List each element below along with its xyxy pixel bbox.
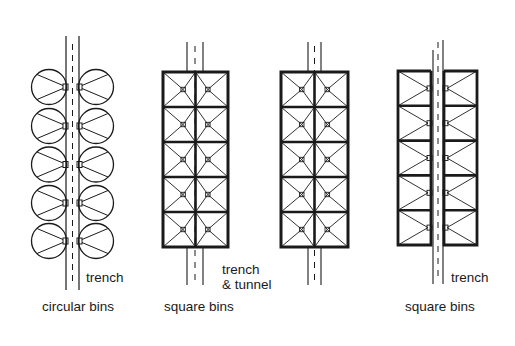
hopper-line [447,158,477,175]
hopper-line [37,191,63,202]
square-bin [444,175,477,210]
square-bin [281,212,315,247]
hopper-line [37,152,63,163]
circular-bin [79,224,114,259]
hopper-line [398,106,428,123]
square-bin [398,71,431,106]
hopper-line [327,142,348,160]
hopper-line [327,72,348,90]
square-bin [398,141,431,176]
circular-bin [32,147,67,182]
hopper-line [37,243,63,254]
caption-square-bins-3: square bins [405,299,475,314]
hopper-line [447,228,477,245]
hopper-line [281,72,302,90]
hopper-line [163,142,183,160]
square-bin [315,212,349,247]
hopper-line [398,175,428,192]
hopper-line [37,205,63,216]
hopper-line [281,230,302,248]
hopper-line [398,210,428,227]
trench-label-square-1: trench [222,262,260,277]
hopper-line [281,90,302,108]
hopper-line [447,141,477,158]
hopper-line [447,210,477,227]
hopper-line [82,191,108,202]
hopper-line [208,142,228,160]
hopper-line [82,152,108,163]
hopper-line [327,90,348,108]
hopper-line [281,195,302,213]
hopper-line [398,158,428,175]
hopper-line [82,243,108,254]
hopper-line [163,212,183,230]
left-bin-block-frame [398,71,431,245]
trench-label-square-3: trench [451,270,489,285]
hopper-line [327,107,348,125]
hopper-line [447,88,477,105]
circular-bin [79,70,114,105]
trench-label-circular: trench [86,270,124,285]
right-bin-block-frame [444,71,477,245]
hopper-line [208,195,228,213]
square-bin [196,72,229,107]
hopper-line [37,75,63,86]
square-bin [315,107,349,142]
hopper-line [327,212,348,230]
hopper-line [447,175,477,192]
hopper-line [163,177,183,195]
hopper-line [398,123,428,140]
hopper-line [37,166,63,177]
hopper-line [327,125,348,143]
hopper-line [398,88,428,105]
square-bin [398,175,431,210]
hopper-line [82,75,108,86]
hopper-line [208,107,228,125]
square-bin [444,210,477,245]
square-bin [398,210,431,245]
circular-bin [32,186,67,221]
square-bin [398,106,431,141]
bin-layout-diagram [0,0,515,346]
hopper-line [327,177,348,195]
hopper-line [82,229,108,240]
circular-bin [79,186,114,221]
circular-bin [79,109,114,144]
hopper-line [82,128,108,139]
hopper-line [163,125,183,143]
square-bin [281,142,315,177]
square-bin [315,177,349,212]
tunnel-label-square-1: & tunnel [222,277,272,292]
hopper-line [82,166,108,177]
hopper-line [163,72,183,90]
square-bin [315,142,349,177]
circular-bin [32,224,67,259]
hopper-line [82,205,108,216]
hopper-line [281,177,302,195]
hopper-line [281,125,302,143]
square-bins-trench-layout [398,40,477,284]
square-bin [163,72,196,107]
hopper-line [208,212,228,230]
square-bin [444,141,477,176]
hopper-line [37,114,63,125]
square-bin [196,212,229,247]
hopper-line [447,106,477,123]
square-bin [196,107,229,142]
hopper-line [398,228,428,245]
square-bin [281,107,315,142]
square-bin [444,71,477,106]
square-bin [315,72,349,107]
square-bin [444,106,477,141]
hopper-line [327,230,348,248]
hopper-line [208,90,228,108]
square-bin [163,212,196,247]
hopper-line [208,177,228,195]
hopper-line [163,90,183,108]
hopper-line [163,230,183,248]
square-bin [281,177,315,212]
caption-square-bins-1: square bins [164,299,234,314]
square-bin [163,142,196,177]
square-bin [196,177,229,212]
caption-circular-bins: circular bins [42,299,114,314]
